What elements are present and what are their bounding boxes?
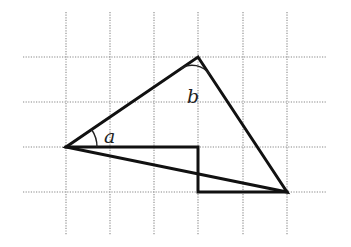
angle-a-arc (92, 130, 97, 148)
angle-b-label: b (187, 85, 199, 107)
angle-a-label: a (104, 125, 115, 147)
grid (23, 12, 326, 235)
triangle (66, 57, 287, 192)
geometry-diagram: a b (0, 0, 351, 247)
